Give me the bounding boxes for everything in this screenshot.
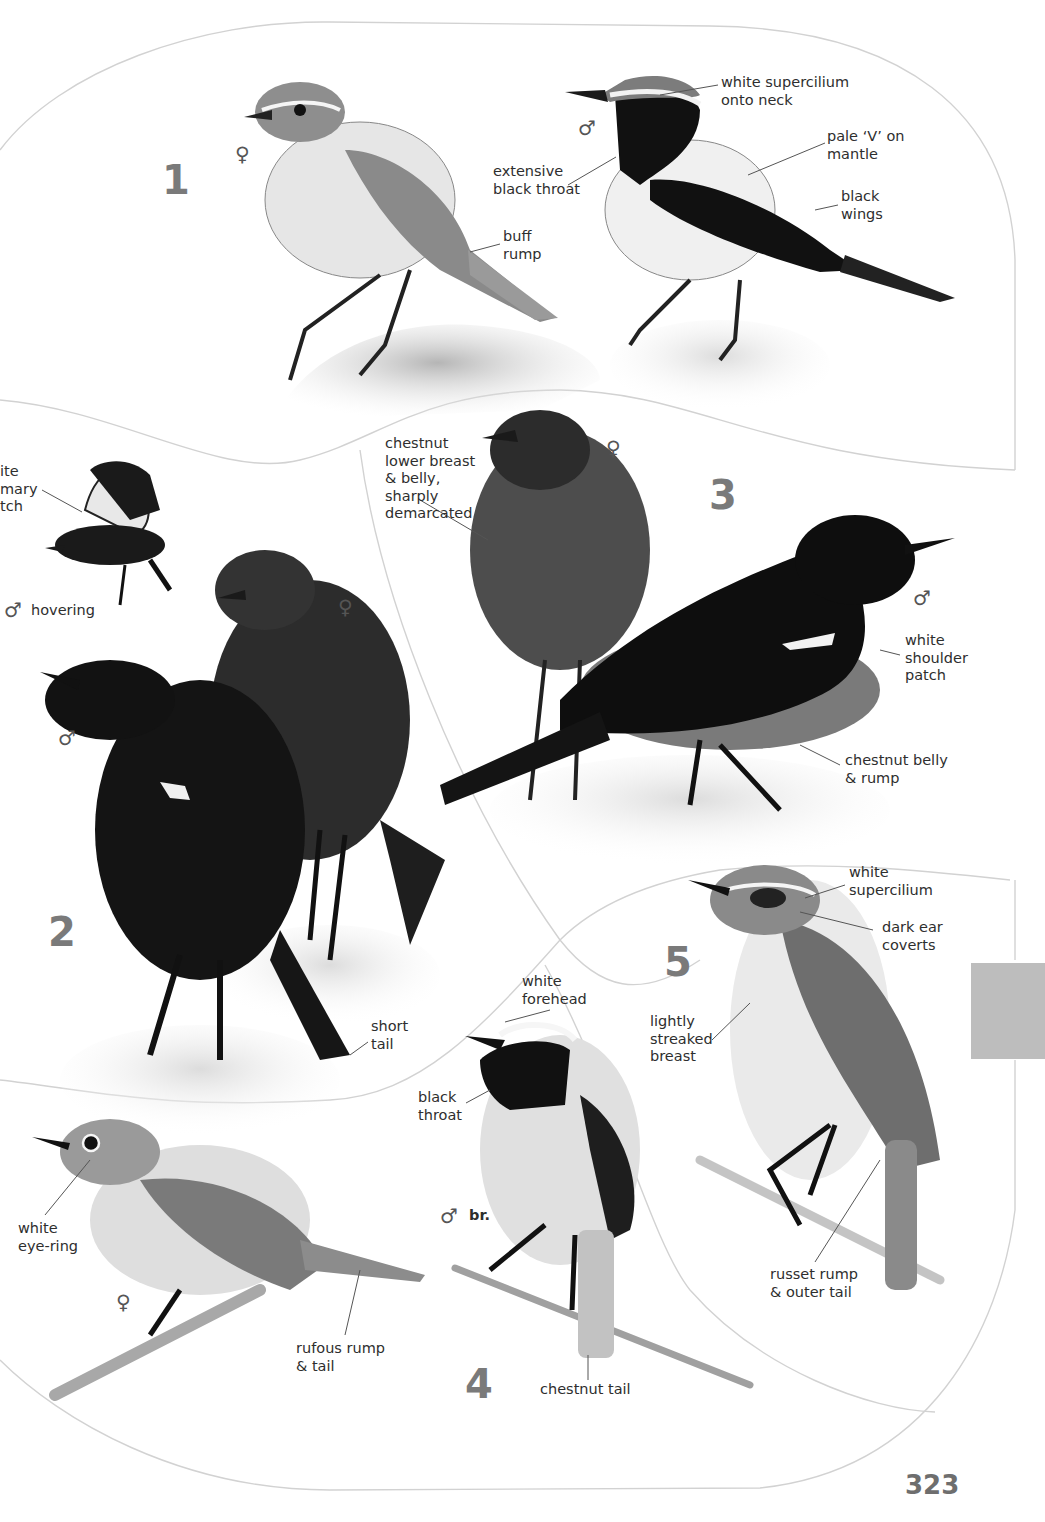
label-buff-rump: buff rump [503,228,541,263]
label-white-supercilium: white supercilium [849,864,933,899]
status-label-breeding: br. [469,1207,490,1225]
thumb-index-tab [971,963,1045,1059]
plate-number-3: 3 [709,475,737,515]
label-rufous-rump-tail: rufous rump & tail [296,1340,385,1375]
plate-number-2: 2 [48,912,76,952]
label-pale-v-on-mantle: pale ‘V’ on mantle [827,128,904,163]
plate-number-5: 5 [664,942,692,982]
label-chestnut-belly-rump: chestnut belly & rump [845,752,948,787]
label-white-primary-patch-cropped: ite mary tch [0,463,38,516]
label-black-throat: black throat [418,1089,462,1124]
male-symbol-icon: ♂ [440,1206,458,1226]
label-white-supercilium-onto-neck: white supercilium onto neck [721,74,849,109]
bird-2-hovering-male [45,461,170,605]
label-short-tail: short tail [371,1018,408,1053]
label-chestnut-lower-breast: chestnut lower breast & belly, sharply d… [385,435,475,523]
label-chestnut-tail: chestnut tail [540,1381,631,1399]
female-symbol-icon: ♀ [235,144,250,164]
male-symbol-icon: ♂ [913,588,931,608]
label-lightly-streaked-breast: lightly streaked breast [650,1013,713,1066]
label-dark-ear-coverts: dark ear coverts [882,919,943,954]
female-symbol-icon: ♀ [338,597,353,617]
field-guide-page: 1 2 3 4 5 ♀ ♂ ♂ ♀ ♂ ♀ ♂ ♀ ♂ hovering br.… [0,0,1045,1522]
label-white-shoulder-patch: white shoulder patch [905,632,968,685]
pose-label-hovering: hovering [31,602,95,620]
page-number: 323 [905,1470,959,1500]
female-symbol-icon: ♀ [116,1292,131,1312]
male-symbol-icon: ♂ [4,600,22,620]
male-symbol-icon: ♂ [58,728,76,748]
plate-number-4: 4 [465,1364,493,1404]
label-white-forehead: white forehead [522,973,587,1008]
label-black-wings: black wings [841,188,883,223]
plate-number-1: 1 [162,160,190,200]
label-white-eye-ring: white eye-ring [18,1220,78,1255]
female-symbol-icon: ♀ [606,438,621,458]
label-extensive-black-throat: extensive black throat [493,163,580,198]
male-symbol-icon: ♂ [578,118,596,138]
bird-1-male [565,76,955,360]
label-russet-rump-outer-tail: russet rump & outer tail [770,1266,858,1301]
